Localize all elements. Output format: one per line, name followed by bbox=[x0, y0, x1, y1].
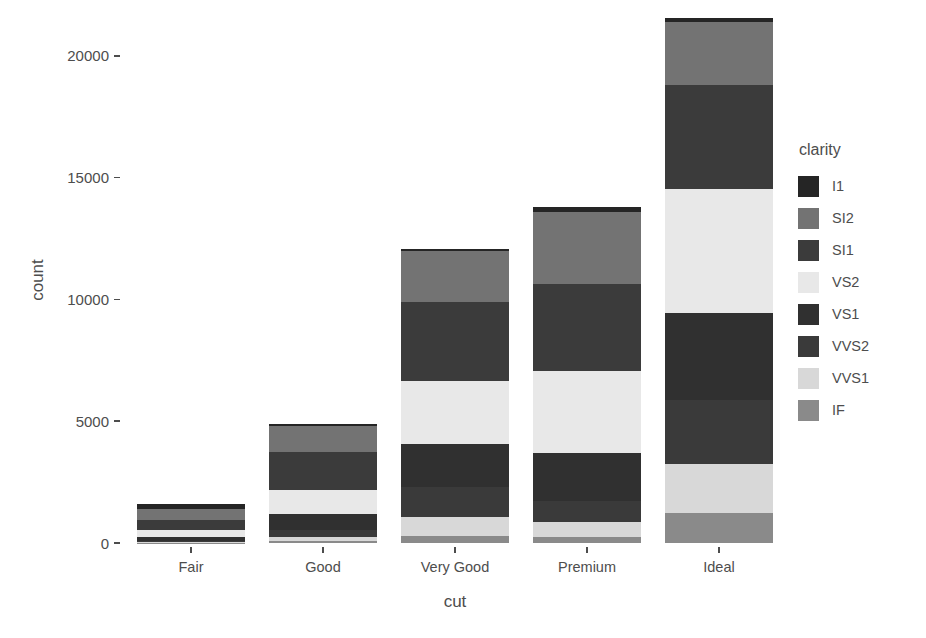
legend-item-label: I1 bbox=[832, 178, 844, 194]
x-axis-tick-mark bbox=[190, 547, 192, 553]
legend-item-label: VVS1 bbox=[832, 370, 869, 386]
bar-segment[interactable] bbox=[269, 452, 377, 490]
legend-item[interactable]: VVS1 bbox=[798, 362, 918, 394]
x-axis-tick: Fair bbox=[131, 547, 251, 575]
bar-segment[interactable] bbox=[401, 487, 509, 517]
bar-stack bbox=[137, 504, 245, 543]
legend-swatch bbox=[798, 272, 819, 293]
x-axis-tick-mark bbox=[586, 547, 588, 553]
bar-group[interactable] bbox=[401, 249, 509, 543]
bar-segment[interactable] bbox=[533, 371, 641, 453]
bar-segment[interactable] bbox=[269, 426, 377, 452]
x-axis-tick: Premium bbox=[527, 547, 647, 575]
y-axis-tick: 5000 bbox=[0, 412, 120, 430]
legend-item[interactable]: I1 bbox=[798, 170, 918, 202]
bar-group[interactable] bbox=[137, 504, 245, 543]
y-axis-tick: 20000 bbox=[0, 47, 120, 65]
bar-group[interactable] bbox=[269, 424, 377, 544]
y-axis-tick-label: 10000 bbox=[67, 291, 109, 308]
bar-segment[interactable] bbox=[401, 444, 509, 487]
bar-segment[interactable] bbox=[401, 517, 509, 536]
chart-container: count 05000100001500020000 FairGoodVery … bbox=[0, 0, 926, 638]
bar-segment[interactable] bbox=[665, 464, 773, 514]
bar-segment[interactable] bbox=[269, 541, 377, 543]
y-axis-tick: 10000 bbox=[0, 290, 120, 308]
plot-panel bbox=[125, 18, 785, 543]
bar-stack bbox=[269, 424, 377, 544]
x-axis-tick-label: Good bbox=[263, 559, 383, 575]
legend-swatch bbox=[798, 304, 819, 325]
bar-segment[interactable] bbox=[401, 302, 509, 381]
bar-segment[interactable] bbox=[665, 85, 773, 189]
legend-item-label: SI2 bbox=[832, 210, 854, 226]
bar-stack bbox=[533, 207, 641, 543]
legend-item-label: VVS2 bbox=[832, 338, 869, 354]
x-axis-tick-label: Ideal bbox=[659, 559, 779, 575]
x-axis-tick-mark bbox=[322, 547, 324, 553]
legend: clarity I1SI2SI1VS2VS1VVS2VVS1IF bbox=[798, 141, 918, 426]
y-axis-tick-label: 0 bbox=[101, 535, 109, 552]
bar-stack bbox=[665, 18, 773, 543]
bar-segment[interactable] bbox=[137, 520, 245, 530]
legend-item[interactable]: VVS2 bbox=[798, 330, 918, 362]
bar-group[interactable] bbox=[665, 18, 773, 543]
x-axis-tick: Good bbox=[263, 547, 383, 575]
x-axis-tick-label: Very Good bbox=[395, 559, 515, 575]
y-axis-tick-label: 15000 bbox=[67, 169, 109, 186]
bar-segment[interactable] bbox=[269, 514, 377, 530]
x-axis-tick: Ideal bbox=[659, 547, 779, 575]
bar-segment[interactable] bbox=[533, 522, 641, 537]
legend-swatch bbox=[798, 240, 819, 261]
y-axis-tick-mark bbox=[114, 542, 120, 544]
bar-segment[interactable] bbox=[269, 530, 377, 537]
legend-item[interactable]: IF bbox=[798, 394, 918, 426]
y-axis-tick-label: 5000 bbox=[76, 413, 109, 430]
y-axis-title: count bbox=[26, 0, 50, 560]
legend-swatch bbox=[798, 176, 819, 197]
bar-stack bbox=[401, 249, 509, 543]
x-axis-tick-label: Fair bbox=[131, 559, 251, 575]
legend-swatch bbox=[798, 400, 819, 421]
y-axis-tick: 15000 bbox=[0, 169, 120, 187]
bar-segment[interactable] bbox=[401, 251, 509, 302]
legend-items: I1SI2SI1VS2VS1VVS2VVS1IF bbox=[798, 170, 918, 426]
bar-group[interactable] bbox=[533, 207, 641, 543]
bar-segment[interactable] bbox=[137, 509, 245, 520]
x-axis-title: cut bbox=[125, 592, 785, 612]
x-axis-tick-mark bbox=[454, 547, 456, 553]
bar-segment[interactable] bbox=[533, 537, 641, 543]
legend-item[interactable]: SI1 bbox=[798, 234, 918, 266]
x-axis-title-text: cut bbox=[444, 592, 467, 611]
legend-item-label: VS2 bbox=[832, 274, 859, 290]
legend-swatch bbox=[798, 336, 819, 357]
legend-item-label: SI1 bbox=[832, 242, 854, 258]
bar-segment[interactable] bbox=[533, 453, 641, 501]
legend-swatch bbox=[798, 208, 819, 229]
y-axis-tick-mark bbox=[114, 177, 120, 179]
legend-swatch bbox=[798, 368, 819, 389]
bar-segment[interactable] bbox=[665, 313, 773, 400]
bar-segment[interactable] bbox=[401, 536, 509, 543]
y-axis-tick-mark bbox=[114, 420, 120, 422]
bar-segment[interactable] bbox=[665, 22, 773, 85]
bar-segment[interactable] bbox=[533, 501, 641, 522]
bar-segment[interactable] bbox=[533, 284, 641, 371]
x-axis-tick-mark bbox=[718, 547, 720, 553]
y-axis-tick-mark bbox=[114, 299, 120, 301]
y-axis-tick-mark bbox=[114, 55, 120, 57]
legend-item[interactable]: VS2 bbox=[798, 266, 918, 298]
bar-segment[interactable] bbox=[533, 212, 641, 284]
bar-segment[interactable] bbox=[665, 189, 773, 313]
legend-item-label: VS1 bbox=[832, 306, 859, 322]
legend-title: clarity bbox=[798, 141, 918, 159]
y-axis-tick-label: 20000 bbox=[67, 47, 109, 64]
legend-item[interactable]: VS1 bbox=[798, 298, 918, 330]
bar-segment[interactable] bbox=[665, 513, 773, 543]
legend-item[interactable]: SI2 bbox=[798, 202, 918, 234]
legend-item-label: IF bbox=[832, 402, 845, 418]
bar-segment[interactable] bbox=[401, 381, 509, 444]
x-axis-tick: Very Good bbox=[395, 547, 515, 575]
bar-segment[interactable] bbox=[269, 490, 377, 514]
bar-segment[interactable] bbox=[665, 400, 773, 463]
x-axis-tick-label: Premium bbox=[527, 559, 647, 575]
